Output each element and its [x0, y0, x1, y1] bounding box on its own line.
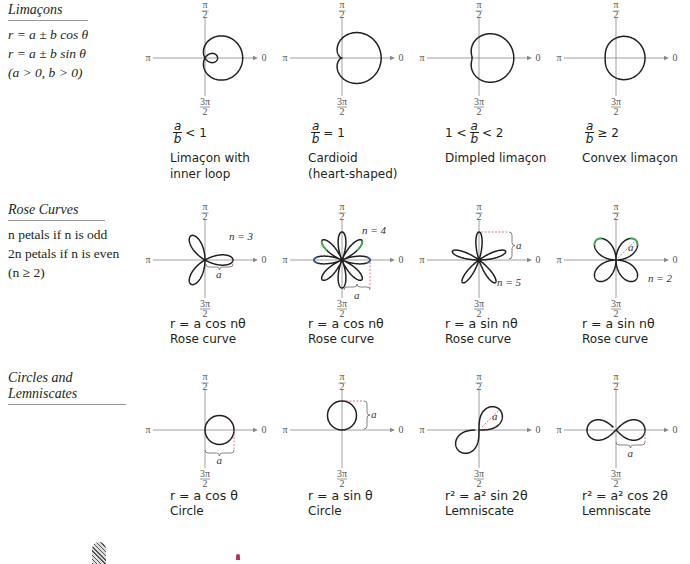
circle-lemniscate-equation: r = a sin θ [308, 488, 373, 503]
rose-curve-graph: π2π03π2n = 4a [272, 200, 412, 320]
rose-curve-graph: π2π03π2an = 2 [546, 200, 686, 320]
circle-lemniscate-caption: Lemniscate [445, 503, 514, 519]
axis-label-3pi-over-2-den: 2 [614, 106, 619, 117]
lemniscate-curve [456, 430, 479, 453]
axis-label-3pi-over-2-den: 2 [477, 106, 482, 117]
limacon-condition: 1 <ab< 2 [445, 120, 503, 145]
axis-label-pi: π [419, 254, 424, 265]
axis-label-pi-over-2-den: 2 [477, 9, 482, 20]
n-label: n = 3 [229, 230, 253, 242]
axis-label-pi: π [282, 52, 287, 63]
polar-axes: π2π03π2 [419, 0, 540, 117]
circle-sin-graph: π2π03π2a [272, 370, 412, 490]
axis-label-3pi-over-2-den: 2 [203, 106, 208, 117]
axis-label-pi-over-2-den: 2 [614, 9, 619, 20]
dimension-brace [364, 401, 370, 429]
polar-axes: π2π03π2 [556, 0, 677, 117]
limacon-graph: π2π03π2 [409, 0, 549, 118]
rose-caption: Rose curve [170, 331, 236, 347]
arrow-right-icon [390, 258, 395, 262]
limacon-caption: Cardioid(heart-shaped) [308, 150, 398, 182]
arrow-right-icon [390, 428, 395, 432]
axis-label-pi: π [282, 254, 287, 265]
axis-label-zero: 0 [399, 424, 404, 435]
dimension-label-a: a [628, 447, 634, 459]
dimension-label-a: a [216, 268, 222, 280]
arrow-right-icon [253, 56, 258, 60]
limacon-caption: Convex limaçon [582, 150, 678, 166]
axis-label-zero: 0 [673, 254, 678, 265]
axis-label-pi: π [282, 424, 287, 435]
rose-equation: r = a sin nθ [445, 316, 518, 331]
arrow-right-icon [664, 56, 669, 60]
fraction-a-over-b: ab [470, 120, 479, 145]
lem-cos-graph: π2π03π2a [546, 370, 686, 490]
condition-prefix: 1 < [445, 126, 467, 140]
arrow-right-icon [253, 258, 258, 262]
cropped-bullet-marker [236, 554, 240, 560]
dimension-label-a: a [628, 241, 634, 253]
limacon-caption: Limaçon withinner loop [170, 150, 250, 182]
dimension-label-a: a [492, 410, 498, 422]
axis-label-pi-over-2-den: 2 [340, 211, 345, 222]
rose-equation: r = a cos nθ [170, 316, 246, 331]
axis-label-zero: 0 [262, 424, 267, 435]
rose-even-rule: 2n petals if n is even [8, 246, 119, 262]
axis-label-pi-over-2-den: 2 [203, 211, 208, 222]
axis-label-zero: 0 [399, 254, 404, 265]
rose-curve-graph: π2π03π2an = 5 [409, 200, 549, 320]
axis-label-zero: 0 [536, 424, 541, 435]
axis-label-zero: 0 [536, 52, 541, 63]
limacon-caption: Dimpled limaçon [445, 150, 546, 166]
rose-petal-highlight [357, 241, 362, 251]
n-label: n = 2 [648, 272, 672, 284]
arrow-right-icon [664, 428, 669, 432]
axis-label-zero: 0 [399, 52, 404, 63]
circle-lemniscate-equation: r = a cos θ [170, 488, 238, 503]
limacon-condition: ab= 1 [308, 120, 345, 145]
rose-petal-highlight [594, 238, 601, 245]
circle-lemniscate-equation: r² = a² sin 2θ [445, 488, 528, 503]
lem-sin-graph: π2π03π2a [409, 370, 549, 490]
axis-label-pi: π [419, 52, 424, 63]
section-title-limacons: Limaçons [8, 2, 88, 21]
dimension-label-a: a [516, 239, 522, 251]
fraction-a-over-b: ab [173, 120, 182, 145]
fraction-a-over-b: ab [585, 120, 594, 145]
limacon-eq-sin: r = a ± b sin θ [8, 46, 86, 62]
rose-constraint: (n ≥ 2) [8, 265, 45, 281]
section-title-rose-curves: Rose Curves [8, 202, 105, 221]
n-label: n = 4 [362, 224, 386, 236]
axis-label-pi-over-2-den: 2 [614, 211, 619, 222]
axis-label-pi-over-2-den: 2 [614, 381, 619, 392]
rose-caption: Rose curve [308, 331, 374, 347]
circle-lemniscate-caption: Lemniscate [582, 503, 651, 519]
dimension-label-a: a [371, 408, 377, 420]
limacon-condition: ab≥ 2 [582, 120, 619, 145]
limacon-graph: π2π03π2 [272, 0, 412, 118]
rose-equation: r = a cos nθ [308, 316, 384, 331]
dimension-label-a: a [217, 454, 223, 466]
axis-label-pi: π [145, 254, 150, 265]
axis-label-pi-over-2-den: 2 [203, 9, 208, 20]
arrow-right-icon [253, 428, 258, 432]
axis-label-pi: π [145, 52, 150, 63]
rose-equation: r = a sin nθ [582, 316, 655, 331]
axis-label-zero: 0 [262, 52, 267, 63]
arrow-right-icon [390, 56, 395, 60]
limacon-condition: ab< 1 [170, 120, 207, 145]
section-title-circles-lemniscates: Circles and Lemniscates [8, 370, 126, 405]
condition-suffix: < 1 [185, 126, 207, 140]
circle-lemniscate-caption: Circle [170, 503, 204, 519]
limacon-graph: π2π03π2 [546, 0, 686, 118]
axis-label-pi: π [419, 424, 424, 435]
axis-label-pi-over-2-den: 2 [340, 9, 345, 20]
axis-label-pi: π [556, 254, 561, 265]
axis-label-zero: 0 [262, 254, 267, 265]
rose-petal-highlight [322, 241, 327, 251]
polar-axes: π2π03π2 [145, 371, 266, 489]
axis-label-pi-over-2-den: 2 [203, 381, 208, 392]
axis-label-zero: 0 [536, 254, 541, 265]
limacon-constraint: (a > 0, b > 0) [8, 65, 82, 81]
rose-caption: Rose curve [582, 331, 648, 347]
